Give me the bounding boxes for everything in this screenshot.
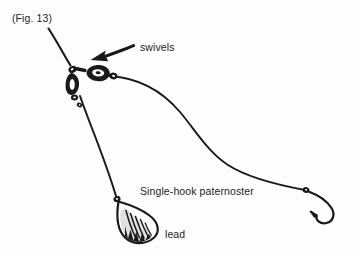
swivels-label: swivels (140, 41, 175, 53)
rig-diagram: (Fig. 13) swivels Single-hook paternoste… (0, 0, 360, 256)
lead-label: lead (165, 228, 185, 240)
figure-canvas: (Fig. 13) swivels Single-hook paternoste… (0, 0, 360, 256)
snood-line (110, 76, 305, 190)
swivel-cluster (66, 65, 119, 109)
lead-drop-line (80, 96, 116, 196)
figure-caption: (Fig. 13) (12, 12, 52, 24)
main-line (49, 29, 71, 66)
hook (302, 186, 334, 223)
rig-name-label: Single-hook paternoster (140, 185, 254, 197)
swivel-right-eye (109, 72, 118, 80)
swivel-connector-left (76, 69, 86, 71)
lead-weight (113, 195, 158, 243)
swivels-arrow (91, 44, 136, 61)
swivel-barrel (87, 65, 110, 81)
